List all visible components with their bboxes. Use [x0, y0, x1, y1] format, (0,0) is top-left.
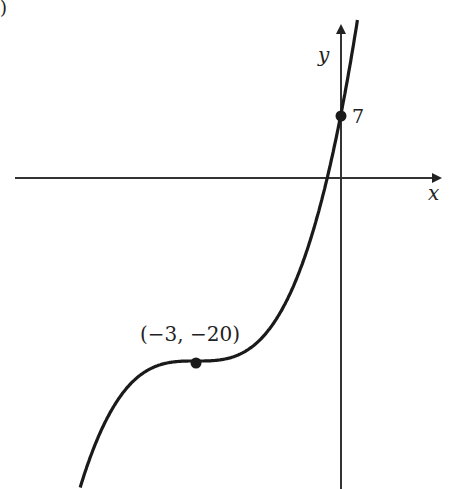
inflection-point [191, 358, 202, 369]
y-intercept-label: 7 [352, 105, 364, 127]
x-axis-label: x [428, 181, 439, 205]
y-intercept-point [336, 111, 347, 122]
inflection-point-label: (−3, −20) [140, 322, 240, 346]
graph: ) x y 7 (−3, −20) [0, 0, 453, 489]
part-label: ) [0, 0, 7, 18]
cubic-curve [80, 20, 357, 487]
y-axis-label: y [317, 43, 330, 67]
